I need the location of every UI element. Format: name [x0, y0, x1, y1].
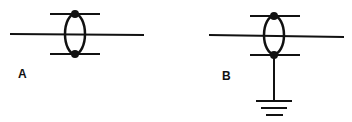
main-conductor-line-b: [209, 35, 344, 37]
ground-icon: [256, 101, 292, 115]
panel-a: [10, 10, 144, 58]
panel-label-a: A: [18, 67, 27, 81]
diagram-canvas: A B: [0, 0, 352, 122]
panel-b: [209, 12, 344, 115]
panel-label-b: B: [222, 69, 231, 83]
top-junction-dot-a: [71, 10, 79, 18]
top-junction-dot-b: [270, 12, 278, 20]
main-conductor-line-a: [10, 34, 144, 35]
bottom-junction-dot-a: [71, 50, 79, 58]
